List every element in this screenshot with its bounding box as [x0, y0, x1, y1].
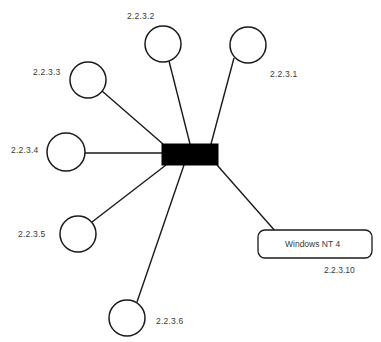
host-box-label: Windows NT 4 [285, 240, 340, 249]
connection-line-2.2.3.5 [92, 165, 166, 222]
host-address-label: 2.2.3.10 [324, 266, 355, 275]
node-circles-group [47, 26, 266, 336]
node-circle-2.2.3.3[interactable] [70, 62, 106, 98]
connection-line-2.2.3.2 [169, 61, 190, 144]
node-label-2.2.3.5: 2.2.3.5 [18, 230, 45, 239]
node-label-2.2.3.3: 2.2.3.3 [33, 68, 60, 77]
central-bus-group [162, 144, 218, 165]
connection-line-2.2.3.1 [211, 58, 234, 144]
network-topology-diagram: 2.2.3.12.2.3.22.2.3.32.2.3.42.2.3.52.2.3… [0, 0, 381, 342]
node-circle-2.2.3.4[interactable] [47, 133, 85, 171]
node-circle-2.2.3.1[interactable] [230, 27, 266, 63]
central-bus-rect[interactable] [162, 144, 218, 165]
node-label-2.2.3.4: 2.2.3.4 [11, 146, 38, 155]
node-label-2.2.3.2: 2.2.3.2 [127, 12, 154, 21]
node-circle-2.2.3.6[interactable] [109, 300, 145, 336]
node-label-2.2.3.1: 2.2.3.1 [270, 70, 297, 79]
node-circle-2.2.3.2[interactable] [145, 26, 181, 62]
connection-lines-group [85, 58, 276, 302]
diagram-canvas [0, 0, 381, 342]
node-label-2.2.3.6: 2.2.3.6 [156, 317, 183, 326]
connection-line-2.2.3.6 [137, 165, 184, 302]
node-circle-2.2.3.5[interactable] [60, 216, 96, 252]
connection-line-2.2.3.3 [102, 91, 163, 144]
connection-line-2.2.3.10 [217, 165, 276, 232]
